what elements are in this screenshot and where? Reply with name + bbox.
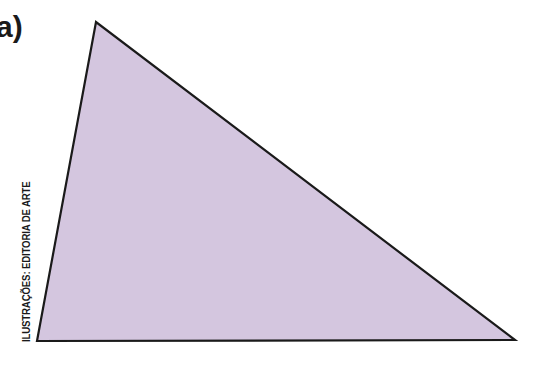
triangle-shape bbox=[37, 22, 515, 341]
triangle-figure bbox=[0, 0, 540, 371]
